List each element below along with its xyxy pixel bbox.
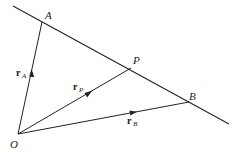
vector-ra-arrowhead-icon <box>29 69 34 77</box>
point-label-o: O <box>10 138 18 150</box>
vector-rb-line <box>18 102 189 134</box>
vector-label-rb-sub: B <box>133 120 138 128</box>
vector-rp-line <box>18 68 131 134</box>
vector-label-rb: r <box>127 115 132 126</box>
diagram-canvas: A P B O r A r P r B <box>0 0 242 154</box>
vector-label-rp: r <box>73 81 78 92</box>
vector-label-ra: r <box>16 67 21 78</box>
point-label-a: A <box>44 9 52 21</box>
vector-label-rp-sub: P <box>78 86 84 94</box>
vector-rp-arrowhead-icon <box>85 91 93 98</box>
line-apb <box>13 6 229 124</box>
vector-diagram: A P B O r A r P r B <box>0 0 242 154</box>
point-label-p: P <box>132 54 140 66</box>
point-label-b: B <box>189 90 196 102</box>
vector-label-ra-sub: A <box>21 72 27 80</box>
